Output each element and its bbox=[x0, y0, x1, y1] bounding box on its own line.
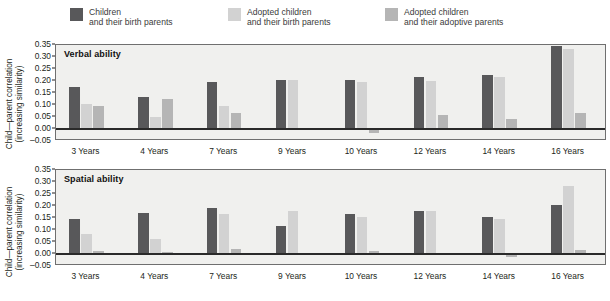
y-axis-tick-label: 0.35 bbox=[35, 40, 51, 48]
bar-group bbox=[538, 45, 607, 139]
bar-group bbox=[263, 170, 332, 264]
bar bbox=[482, 217, 493, 254]
bar-group bbox=[56, 170, 125, 264]
y-axis-tick-label: 0.20 bbox=[35, 201, 51, 209]
bar bbox=[150, 117, 161, 129]
x-axis-label: 10 Years bbox=[345, 271, 378, 281]
x-axis-labels-verbal: 3 Years4 Years7 Years9 Years10 Years12 Y… bbox=[0, 146, 610, 160]
bar bbox=[219, 214, 230, 254]
bar-group bbox=[469, 170, 538, 264]
x-axis-label: 9 Years bbox=[278, 271, 306, 281]
bar bbox=[357, 217, 368, 254]
y-axis-ticks-spatial: 0.350.300.250.200.150.100.050.00–0.05 bbox=[26, 169, 55, 265]
y-axis-tick-label: 0.25 bbox=[35, 64, 51, 72]
panel-title-verbal: Verbal ability bbox=[64, 49, 121, 59]
zero-line-spatial bbox=[56, 253, 605, 254]
bar bbox=[414, 77, 425, 129]
bar bbox=[482, 75, 493, 129]
bar bbox=[69, 87, 80, 129]
bar bbox=[575, 113, 586, 129]
legend-item-adopted-adoptive-parents: Adopted children and their adoptive pare… bbox=[385, 7, 503, 28]
legend-swatch-children-birth-parents bbox=[70, 8, 83, 21]
bar-group bbox=[125, 170, 194, 264]
y-axis-tick-label: 0.10 bbox=[35, 225, 51, 233]
x-axis-label: 12 Years bbox=[414, 271, 447, 281]
x-axis-label: 3 Years bbox=[71, 271, 99, 281]
plot-area-spatial bbox=[55, 169, 606, 265]
bar-groups-spatial bbox=[56, 170, 605, 264]
y-axis-title-line2: (increasing similarity) bbox=[15, 58, 25, 149]
x-axis-label: 14 Years bbox=[482, 271, 515, 281]
bar bbox=[231, 113, 242, 129]
legend-label-children-birth-parents: Children and their birth parents bbox=[89, 7, 173, 28]
bar bbox=[357, 82, 368, 129]
y-axis-tick-label: 0.15 bbox=[35, 88, 51, 96]
plot-area-verbal bbox=[55, 44, 606, 140]
legend-label-adopted-birth-parents: Adopted children and their birth parents bbox=[247, 7, 331, 28]
legend-swatch-adopted-birth-parents bbox=[228, 8, 241, 21]
y-axis-title-line1: Child—parent correlation bbox=[5, 58, 15, 149]
bar bbox=[563, 49, 574, 129]
bar-group bbox=[194, 45, 263, 139]
bar bbox=[276, 80, 287, 129]
bar-group bbox=[400, 45, 469, 139]
y-axis-tick-label: 0.20 bbox=[35, 76, 51, 84]
bar bbox=[494, 219, 505, 254]
bar bbox=[138, 97, 149, 129]
x-axis-label: 9 Years bbox=[278, 146, 306, 156]
bar bbox=[150, 239, 161, 254]
bar-group bbox=[332, 170, 401, 264]
legend-label-line2: and their adoptive parents bbox=[404, 17, 503, 27]
bar bbox=[138, 213, 149, 254]
bar-group bbox=[469, 45, 538, 139]
x-axis-label: 14 Years bbox=[482, 146, 515, 156]
legend-label-line1: Adopted children bbox=[404, 7, 503, 17]
bar bbox=[69, 219, 80, 254]
x-axis-label: 7 Years bbox=[209, 271, 237, 281]
bar bbox=[426, 81, 437, 129]
bar-group bbox=[125, 45, 194, 139]
bar bbox=[551, 205, 562, 254]
y-axis-tick-label: 0.05 bbox=[35, 237, 51, 245]
y-axis-title-line1: Child—parent correlation bbox=[5, 187, 15, 278]
legend-swatch-adopted-adoptive-parents bbox=[385, 8, 398, 21]
bar bbox=[207, 208, 218, 254]
y-axis-title-line2: (increasing similarity) bbox=[15, 187, 25, 278]
x-axis-label: 16 Years bbox=[551, 146, 584, 156]
chart-legend: Children and their birth parents Adopted… bbox=[0, 0, 610, 38]
bar bbox=[162, 99, 173, 129]
x-axis-label: 10 Years bbox=[345, 146, 378, 156]
y-axis-tick-label: –0.05 bbox=[30, 261, 51, 269]
bar bbox=[276, 226, 287, 254]
bar bbox=[207, 82, 218, 129]
y-axis-tick-label: 0.00 bbox=[35, 249, 51, 257]
bar bbox=[93, 106, 104, 129]
y-axis-tick-label: –0.05 bbox=[30, 136, 51, 144]
bar bbox=[414, 211, 425, 254]
legend-item-adopted-birth-parents: Adopted children and their birth parents bbox=[228, 7, 331, 28]
zero-line-verbal bbox=[56, 128, 605, 129]
panel-verbal-ability: Child—parent correlation (increasing sim… bbox=[0, 38, 610, 169]
bar bbox=[438, 115, 449, 129]
legend-label-line1: Children bbox=[89, 7, 173, 17]
x-axis-label: 7 Years bbox=[209, 146, 237, 156]
bar-group bbox=[332, 45, 401, 139]
legend-label-line1: Adopted children bbox=[247, 7, 331, 17]
y-axis-tick-label: 0.15 bbox=[35, 213, 51, 221]
legend-label-line2: and their birth parents bbox=[247, 17, 331, 27]
bar-group bbox=[538, 170, 607, 264]
y-axis-tick-label: 0.10 bbox=[35, 100, 51, 108]
legend-label-adopted-adoptive-parents: Adopted children and their adoptive pare… bbox=[404, 7, 503, 28]
legend-label-line2: and their birth parents bbox=[89, 17, 173, 27]
bar bbox=[563, 186, 574, 254]
panel-title-spatial: Spatial ability bbox=[64, 174, 124, 184]
x-axis-labels-spatial: 3 Years4 Years7 Years9 Years10 Years12 Y… bbox=[0, 271, 610, 285]
y-axis-tick-label: 0.35 bbox=[35, 165, 51, 173]
bar bbox=[345, 214, 356, 254]
bar bbox=[345, 80, 356, 129]
bar-groups-verbal bbox=[56, 45, 605, 139]
y-axis-tick-label: 0.00 bbox=[35, 124, 51, 132]
bar-group bbox=[400, 170, 469, 264]
bar bbox=[219, 106, 230, 129]
bar-group bbox=[56, 45, 125, 139]
